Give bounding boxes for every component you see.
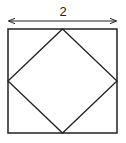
outer-square [8,29,117,133]
square-diagram: 2 [0,0,126,143]
inner-square [8,29,117,133]
dimension-label: 2 [59,4,66,19]
